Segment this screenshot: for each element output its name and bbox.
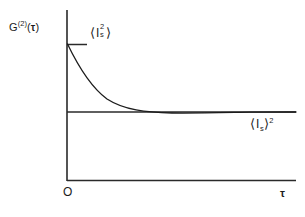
angle-bracket-open-icon: ⟨	[250, 116, 256, 131]
correlation-decay-curve	[68, 44, 297, 113]
x-axis-label: τ	[280, 188, 285, 199]
y-axis-label: G(2)(τ)	[9, 20, 39, 33]
initial-value-label: ⟨I2s⟩	[90, 25, 112, 39]
plot-canvas	[0, 0, 305, 217]
figure-container: G(2)(τ) ⟨I2s⟩ ⟨Is⟩2 O τ	[0, 0, 305, 217]
initial-value-subscript: s	[100, 31, 104, 39]
asymptote-value-superscript: 2	[269, 116, 273, 125]
y-axis-label-superscript: (2)	[18, 19, 27, 28]
angle-bracket-close-icon: ⟩	[106, 25, 112, 40]
sub-sup-stack: 2s	[100, 25, 106, 37]
asymptote-value-label: ⟨Is⟩2	[250, 117, 273, 133]
angle-bracket-open-icon: ⟨	[90, 25, 96, 40]
y-axis-label-base: G	[9, 21, 18, 33]
origin-label: O	[63, 186, 73, 198]
y-axis-label-paren-close: )	[35, 21, 39, 33]
